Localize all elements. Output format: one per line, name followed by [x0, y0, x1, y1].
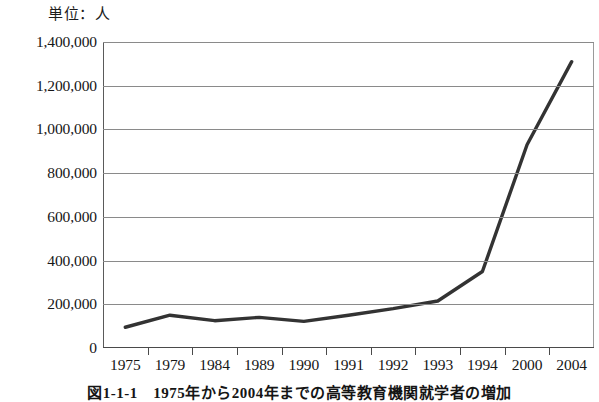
x-tick-mark	[505, 348, 506, 355]
y-tick-label: 200,000	[47, 295, 97, 313]
y-tick-label: 800,000	[47, 164, 97, 182]
x-tick-label: 1993	[422, 356, 453, 374]
x-tick-label: 1992	[378, 356, 409, 374]
gridline	[103, 129, 594, 130]
x-tick-mark	[415, 348, 416, 355]
x-tick-mark	[237, 348, 238, 355]
x-tick-label: 1984	[199, 356, 230, 374]
x-axis-labels: 1975197919841989199019911992199319942000…	[103, 356, 594, 378]
x-tick-label: 2004	[556, 356, 587, 374]
y-tick-label: 0	[89, 339, 97, 357]
x-tick-label: 1994	[467, 356, 498, 374]
y-tick-label: 1,400,000	[36, 33, 97, 51]
x-tick-mark	[282, 348, 283, 355]
gridline	[103, 304, 594, 305]
y-tick-label: 1,000,000	[36, 120, 97, 138]
x-tick-label: 1991	[333, 356, 364, 374]
x-tick-label: 1990	[289, 356, 320, 374]
x-tick-mark	[549, 348, 550, 355]
gridline	[103, 217, 594, 218]
x-tick-label: 1979	[155, 356, 186, 374]
x-tick-mark	[460, 348, 461, 355]
x-tick-mark	[148, 348, 149, 355]
gridline	[103, 86, 594, 87]
y-axis-labels: 0200,000400,000600,000800,0001,000,0001,…	[0, 0, 97, 399]
gridline	[103, 261, 594, 262]
plot-area	[103, 42, 594, 348]
x-tick-label: 1975	[110, 356, 141, 374]
y-tick-label: 400,000	[47, 252, 97, 270]
data-series-line	[103, 42, 594, 348]
y-tick-label: 1,200,000	[36, 77, 97, 95]
x-tick-mark	[326, 348, 327, 355]
x-tick-mark	[192, 348, 193, 355]
x-tick-label: 1989	[244, 356, 275, 374]
x-tick-mark	[371, 348, 372, 355]
gridline	[103, 173, 594, 174]
figure-caption: 図1-1-1 1975年から2004年までの高等教育機関就学者の増加	[0, 381, 599, 402]
gridline	[103, 42, 594, 43]
x-tick-label: 2000	[512, 356, 543, 374]
y-tick-label: 600,000	[47, 208, 97, 226]
